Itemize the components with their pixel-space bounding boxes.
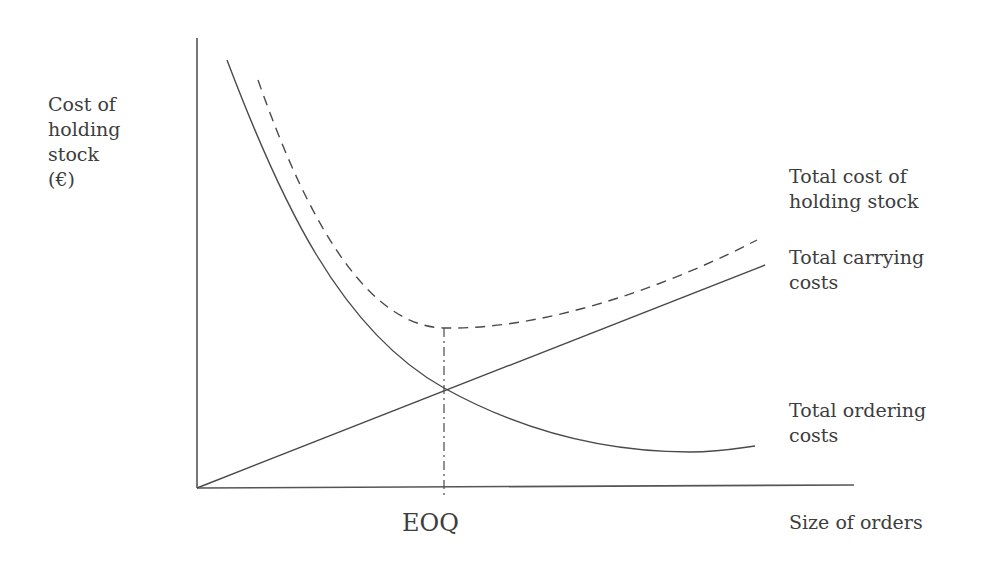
y-axis-label-line: Cost of [48,92,120,117]
total-cost-label-line: Total cost of [789,164,918,189]
carrying-costs-line [197,265,765,488]
carrying-costs-label-line: costs [789,270,924,295]
ordering-costs-label-line: Total ordering [789,398,926,423]
total-cost-label-line: holding stock [789,189,918,214]
carrying-costs-label-line: Total carrying [789,245,924,270]
x-axis [197,485,854,488]
y-axis-label-line: (€) [48,167,120,192]
y-axis-label-line: stock [48,142,120,167]
total-cost-curve [258,80,757,328]
x-axis-label: Size of orders [789,510,923,535]
eoq-label: EOQ [402,508,459,538]
ordering-costs-label-line: costs [789,423,926,448]
eoq-label-text: EOQ [402,508,459,538]
y-axis-label: Cost of holding stock (€) [48,92,120,192]
ordering-costs-curve [227,60,755,452]
total-cost-label: Total cost of holding stock [789,164,918,214]
x-axis-label-text: Size of orders [789,510,923,535]
y-axis-label-line: holding [48,117,120,142]
ordering-costs-label: Total ordering costs [789,398,926,448]
carrying-costs-label: Total carrying costs [789,245,924,295]
